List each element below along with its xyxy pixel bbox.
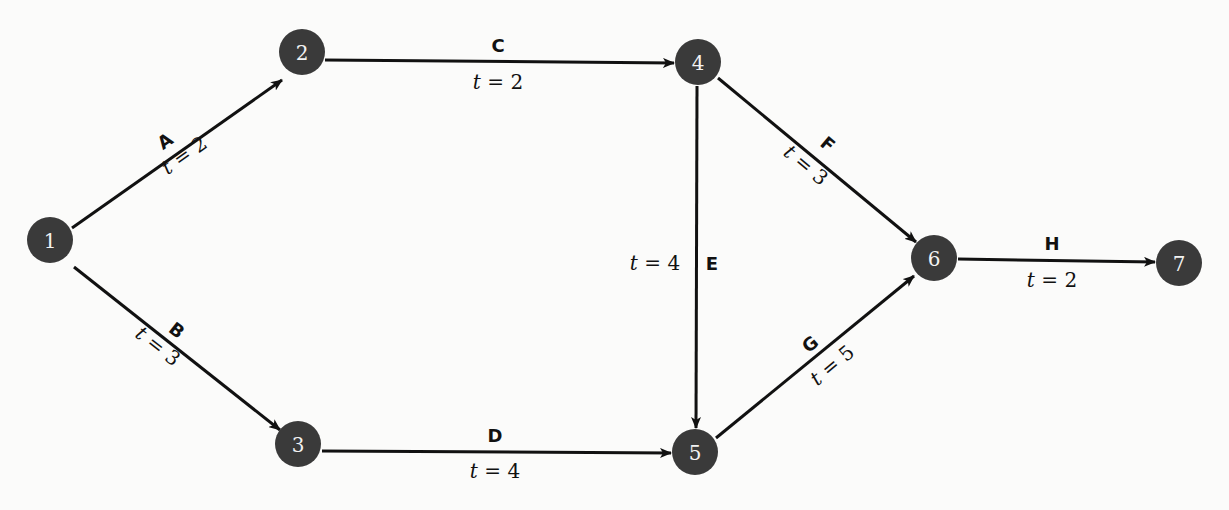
node-1-label: 1 bbox=[44, 229, 57, 253]
activity-network-diagram: A t = 2 B t = 3 C t = 2 D t = 4 E t = 4 bbox=[0, 0, 1229, 510]
node-2: 2 bbox=[279, 29, 325, 75]
node-5-label: 5 bbox=[689, 441, 702, 465]
edge-c-arrow bbox=[325, 60, 674, 63]
node-3-label: 3 bbox=[292, 433, 305, 457]
node-7-label: 7 bbox=[1173, 252, 1186, 276]
edge-a: A t = 2 bbox=[72, 80, 282, 228]
edge-f: F t = 3 bbox=[718, 78, 916, 242]
nodes: 1 2 3 4 5 6 7 bbox=[27, 29, 1202, 475]
edge-b: B t = 3 bbox=[74, 267, 280, 430]
edge-e-name: E bbox=[706, 253, 718, 274]
edge-h: H t = 2 bbox=[958, 233, 1155, 293]
edge-e-arrow bbox=[696, 86, 697, 428]
edge-d-weight: t = 4 bbox=[470, 459, 520, 483]
edge-c-weight: t = 2 bbox=[473, 70, 523, 94]
node-4: 4 bbox=[675, 39, 721, 85]
node-3: 3 bbox=[275, 421, 321, 467]
edge-c-name: C bbox=[491, 35, 504, 56]
edge-h-name: H bbox=[1044, 233, 1059, 254]
node-6: 6 bbox=[911, 235, 957, 281]
edge-d-arrow bbox=[322, 451, 671, 453]
edge-g-arrow bbox=[716, 276, 914, 438]
edges: A t = 2 B t = 3 C t = 2 D t = 4 E t = 4 bbox=[72, 35, 1155, 484]
node-5: 5 bbox=[672, 429, 718, 475]
edge-f-name: F bbox=[817, 132, 840, 156]
edge-e: E t = 4 bbox=[630, 86, 718, 428]
edge-d: D t = 4 bbox=[322, 425, 671, 484]
edge-e-weight: t = 4 bbox=[630, 251, 680, 275]
node-6-label: 6 bbox=[928, 247, 941, 271]
edge-d-name: D bbox=[488, 425, 503, 446]
edge-h-weight: t = 2 bbox=[1027, 268, 1077, 292]
edge-g: G t = 5 bbox=[716, 276, 914, 438]
node-1: 1 bbox=[27, 217, 73, 263]
edge-h-arrow bbox=[958, 259, 1155, 262]
edge-c: C t = 2 bbox=[325, 35, 674, 95]
node-2-label: 2 bbox=[296, 41, 309, 65]
node-4-label: 4 bbox=[692, 51, 705, 75]
node-7: 7 bbox=[1156, 240, 1202, 286]
